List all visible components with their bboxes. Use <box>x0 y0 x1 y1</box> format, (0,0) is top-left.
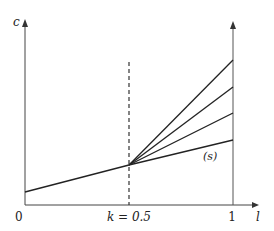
x-axis-arrow-icon <box>252 202 259 208</box>
diagram-svg: c 0 k = 0.5 1 l (s) <box>0 0 274 231</box>
fan-line-3 <box>129 113 233 165</box>
y-axis-label: c <box>13 15 20 29</box>
x-axis-label: l <box>256 210 260 224</box>
k-tick-label: k = 0.5 <box>107 210 151 224</box>
one-tick-label: 1 <box>228 210 236 224</box>
curve-s-label: (s) <box>203 150 217 163</box>
fan-line-2 <box>129 87 233 165</box>
origin-label: 0 <box>15 210 23 224</box>
diagram-canvas: c 0 k = 0.5 1 l (s) <box>0 0 274 231</box>
fan-line-1 <box>129 60 233 165</box>
y-axis-arrow-icon <box>22 19 28 27</box>
l-one-arrow-icon <box>230 21 236 29</box>
base-line <box>25 165 129 192</box>
